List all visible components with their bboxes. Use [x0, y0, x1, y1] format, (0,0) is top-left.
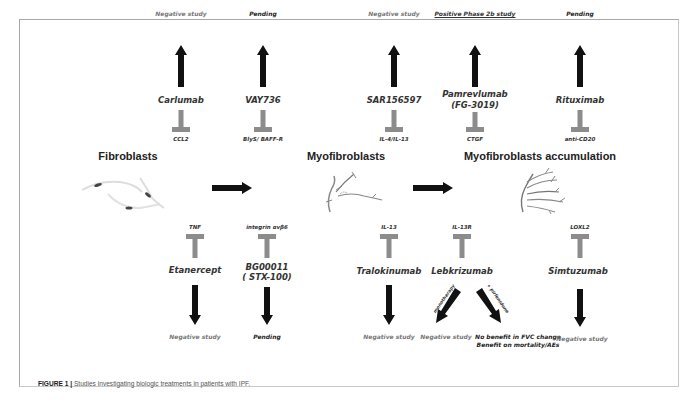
outcome-bg00011: Pending [253, 333, 281, 340]
outcome-pamrevlumab: Positive Phase 2b study [434, 10, 515, 17]
target-pamrevlumab: CTGF [467, 136, 483, 142]
figure-caption: FIGURE 1 | Studies investigating biologi… [38, 380, 250, 387]
up-arrow-icon [469, 45, 481, 87]
figure-label: FIGURE 1 | [38, 380, 72, 387]
target-bg00011: integrin αvβ6 [246, 224, 288, 230]
inhibitor-icon [466, 112, 484, 132]
stage-title-fibroblasts: Fibroblasts [98, 150, 157, 162]
target-etanercept: TNF [189, 224, 201, 230]
outcome-vay736: Pending [249, 10, 277, 17]
inhibitor-icon [172, 110, 190, 132]
outcome-tralokinumab: Negative study [363, 333, 414, 340]
outcome-rituximab: Pending [566, 10, 594, 17]
inhibitor-icon [571, 234, 589, 258]
outcome-lebkrizumab-pirfenidone-mortality: Benefit on mortality/AEs [477, 341, 560, 348]
inhibitor-icon [385, 110, 403, 132]
target-rituximab: anti-CD20 [565, 136, 596, 142]
inhibitor-icon [453, 234, 471, 258]
right-arrow-icon [212, 182, 252, 194]
target-vay736: BlyS/ BAFF-R [243, 136, 283, 142]
inhibitor-icon [254, 110, 272, 132]
inhibitor-icon [186, 234, 204, 258]
drug-vay736: VAY736 [245, 95, 281, 105]
drug-bg00011: BG00011 [245, 262, 288, 272]
inhibitor-icon [258, 234, 276, 258]
target-carlumab: CCL2 [173, 136, 188, 142]
down-arrow-icon [574, 289, 586, 327]
outcome-etanercept: Negative study [169, 333, 220, 340]
down-arrow-icon [261, 287, 273, 325]
drug-rituximab: Rituximab [556, 95, 605, 105]
target-sar156597: IL-4/IL-13 [379, 136, 408, 142]
up-arrow-icon [574, 45, 586, 87]
target-lebkrizumab: IL-13R [452, 224, 472, 230]
down-arrow-icon [189, 285, 201, 325]
stage-title-accumulation: Myofibroblasts accumulation [464, 150, 616, 162]
outcome-carlumab: Negative study [155, 10, 206, 17]
outcome-sar156597: Negative study [368, 10, 419, 17]
up-arrow-icon [175, 45, 187, 87]
drug-sar156597: SAR156597 [367, 95, 422, 105]
drug-bg00011-code: ( STX-100) [242, 272, 291, 282]
drug-simtuzumab: Simtuzumab [548, 266, 608, 276]
target-tralokinumab: IL-13 [381, 224, 397, 230]
fibroblast-cells-image [80, 168, 170, 213]
drug-pamrevlumab: Pamrevlumab [442, 89, 507, 99]
drug-pamrevlumab-code: (FG-3019) [451, 100, 499, 110]
myofibroblast-cells-image [322, 170, 384, 215]
target-simtuzumab: LOXL2 [570, 224, 589, 230]
right-arrow-icon [413, 182, 453, 194]
outcome-lebkrizumab-monotherapy: Negative study [420, 333, 471, 340]
outcome-simtuzumab: Negative study [556, 335, 607, 342]
outcome-lebkrizumab-pirfenidone-fvc: No benefit in FVC change [475, 333, 561, 340]
down-arrow-icon [383, 285, 395, 325]
stage-title-myofibroblasts: Myofibroblasts [307, 150, 385, 162]
drug-tralokinumab: Tralokinumab [357, 266, 422, 276]
figure-caption-text: Studies investigating biologic treatment… [72, 380, 250, 387]
inhibitor-icon [571, 110, 589, 132]
myofibroblast-accumulation-image [515, 168, 575, 216]
up-arrow-icon [388, 45, 400, 87]
up-arrow-icon [257, 45, 269, 87]
drug-lebkrizumab: Lebkrizumab [431, 266, 493, 276]
inhibitor-icon [380, 234, 398, 258]
drug-carlumab: Carlumab [158, 95, 204, 105]
drug-etanercept: Etanercept [169, 265, 222, 275]
